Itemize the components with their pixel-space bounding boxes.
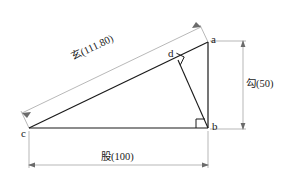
- hypotenuse-dimension-group: [21, 22, 208, 128]
- right-angle-b-icon: [196, 119, 205, 128]
- diagram-canvas: [0, 0, 285, 182]
- triangle-edges: [29, 42, 208, 128]
- edge-d-b: [178, 60, 208, 128]
- right-angle-markers: [176, 53, 205, 128]
- vertex-label-c: c: [21, 128, 26, 139]
- vertical-leg-dimension-group: [210, 40, 246, 130]
- vertex-label-a: a: [211, 34, 216, 45]
- vertex-label-d: d: [168, 48, 174, 59]
- dimension-label-vertical-leg: 勾(50): [246, 79, 274, 90]
- right-angle-d-icon: [176, 53, 184, 65]
- xuan-extension-line-a: [200, 25, 208, 42]
- geometry-diagram: a b c d 玄(111.80) 勾(50) 股(100): [0, 0, 285, 182]
- xuan-arrow-end: [192, 22, 201, 28]
- xuan-arrow-start: [22, 112, 31, 118]
- dimension-label-base-leg: 股(100): [101, 152, 134, 163]
- edge-c-a: [29, 42, 208, 128]
- vertex-label-b: b: [212, 121, 218, 132]
